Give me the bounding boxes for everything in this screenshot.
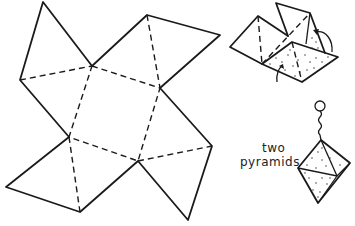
pyramid-craft-diagram: two pyramids xyxy=(0,0,355,226)
octahedron-ornament xyxy=(298,101,350,203)
fold-line xyxy=(292,42,302,82)
flap-outline xyxy=(230,16,288,64)
square-base-fold-lines xyxy=(69,66,160,161)
fold-line xyxy=(20,66,92,80)
label-pyramids: pyramids xyxy=(240,156,300,168)
flap-edge xyxy=(306,13,310,44)
string xyxy=(319,111,322,140)
fold-line xyxy=(138,146,212,161)
net-outline xyxy=(6,2,220,220)
diagram-canvas xyxy=(0,0,355,226)
fold-line xyxy=(147,15,160,88)
folding-illustration xyxy=(230,3,338,82)
edge xyxy=(318,176,337,203)
fold-line xyxy=(262,13,310,64)
flat-net xyxy=(6,2,220,220)
hanging-loop-icon xyxy=(315,101,325,111)
fold-line xyxy=(69,137,80,212)
fold-arrow-icon xyxy=(277,66,282,82)
fold-line xyxy=(258,16,262,64)
label-two: two xyxy=(262,142,285,154)
